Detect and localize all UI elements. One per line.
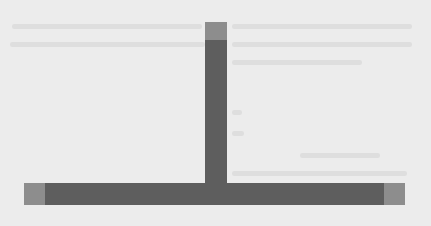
ghost-text-line xyxy=(232,24,412,29)
ghost-text-line xyxy=(232,60,362,65)
ghost-text-line xyxy=(12,24,202,29)
ghost-text-line xyxy=(232,110,242,115)
horizontal-bar-right-cap xyxy=(384,183,405,205)
vertical-bar xyxy=(205,22,227,194)
vertical-bar-top-cap xyxy=(205,22,227,40)
ghost-text-line xyxy=(10,42,205,47)
horizontal-bar-left-cap xyxy=(24,183,45,205)
ghost-text-line xyxy=(232,131,244,136)
ghost-text-line xyxy=(300,153,380,158)
ghost-text-line xyxy=(232,171,407,176)
horizontal-bar xyxy=(24,183,405,205)
document-page xyxy=(0,0,431,226)
ghost-text-line xyxy=(232,42,412,47)
